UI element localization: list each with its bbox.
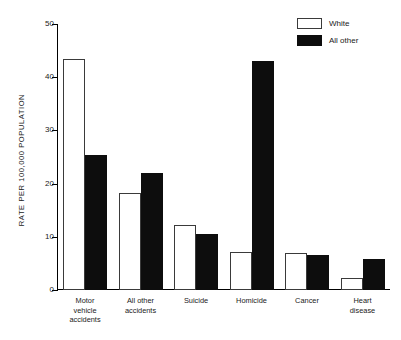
chart-legend: WhiteAll other — [297, 18, 358, 52]
bar-all-other — [196, 234, 218, 290]
x-axis-category-label: Motorvehicleaccidents — [53, 296, 117, 325]
legend-item: All other — [297, 35, 358, 46]
bar-group: All otheraccidents — [119, 24, 163, 290]
x-axis-category-label-line: Homicide — [220, 296, 284, 306]
bar-group: Cancer — [285, 24, 329, 290]
bar-all-other — [307, 255, 329, 290]
bar-all-other — [363, 259, 385, 290]
x-axis-category-label-line: Suicide — [164, 296, 228, 306]
x-axis-category-label-line: accidents — [109, 306, 173, 316]
legend-swatch-white — [297, 18, 322, 29]
bar-white — [341, 278, 363, 290]
bar-all-other — [141, 173, 163, 290]
x-axis-category-label-line: Cancer — [275, 296, 339, 306]
plot-area: 01020304050 MotorvehicleaccidentsAll oth… — [57, 24, 390, 290]
bar-all-other — [252, 61, 274, 290]
bar-groups: MotorvehicleaccidentsAll otheraccidentsS… — [58, 24, 390, 290]
x-axis-category-label: Heartdisease — [331, 296, 395, 315]
y-tick-label: 50 — [45, 18, 54, 29]
bar-white — [63, 59, 85, 290]
y-tick-label: 40 — [45, 71, 54, 82]
bar-group: Homicide — [230, 24, 274, 290]
bar-group: Suicide — [174, 24, 218, 290]
bar-white — [174, 225, 196, 290]
x-axis-category-label-line: Heart — [331, 296, 395, 306]
bar-all-other — [85, 155, 107, 290]
x-axis-category-label: Cancer — [275, 296, 339, 306]
x-axis-category-label-line: Motor — [53, 296, 117, 306]
x-axis-category-label-line: disease — [331, 306, 395, 316]
y-tick-label: 20 — [45, 178, 54, 189]
x-axis-category-label-line: accidents — [53, 315, 117, 325]
x-axis-category-label: Homicide — [220, 296, 284, 306]
x-axis-category-label-line: All other — [109, 296, 173, 306]
bar-white — [230, 252, 252, 290]
y-tick-label: 30 — [45, 124, 54, 135]
bar-group: Motorvehicleaccidents — [63, 24, 107, 290]
legend-item: White — [297, 18, 358, 29]
bar-white — [119, 193, 141, 290]
legend-swatch-black — [297, 35, 322, 46]
y-tick-label: 10 — [45, 231, 54, 242]
bar-group: Heartdisease — [341, 24, 385, 290]
y-tick-label: 0 — [50, 284, 54, 295]
y-axis-title: RATE PER 100,000 POPULATION — [15, 60, 29, 260]
legend-label: All other — [329, 35, 358, 46]
bar-white — [285, 253, 307, 290]
legend-label: White — [329, 18, 349, 29]
x-axis-category-label-line: vehicle — [53, 306, 117, 316]
x-axis-category-label: Suicide — [164, 296, 228, 306]
x-axis-category-label: All otheraccidents — [109, 296, 173, 315]
bar-chart: RATE PER 100,000 POPULATION 01020304050 … — [0, 0, 401, 340]
